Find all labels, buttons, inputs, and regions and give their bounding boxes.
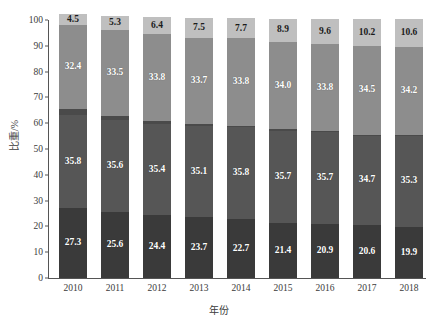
- x-tick-label: 2015: [269, 283, 297, 293]
- bar-segment-segment-5[interactable]: 4.5: [59, 14, 87, 26]
- y-tick-label: 90: [34, 41, 44, 51]
- stacked-bar-chart: 比重/% 年份 0102030405060708090100 27.335.83…: [0, 0, 437, 326]
- bar-segment-segment-1[interactable]: 20.9: [311, 224, 339, 278]
- bar-group[interactable]: 23.735.133.77.5: [185, 20, 213, 278]
- bar-segment-segment-4[interactable]: 33.8: [311, 44, 339, 131]
- bar-value-label: 4.5: [67, 15, 79, 25]
- bar-group[interactable]: 21.435.734.08.9: [269, 20, 297, 278]
- bar-value-label: 34.7: [359, 175, 376, 185]
- bar-value-label: 33.8: [317, 83, 334, 93]
- bar-value-label: 9.6: [319, 27, 331, 37]
- bar-segment-segment-4[interactable]: 33.8: [227, 38, 255, 125]
- bar-segment-segment-3[interactable]: [59, 109, 87, 115]
- bar-segment-segment-4[interactable]: 33.7: [185, 38, 213, 125]
- bar-segment-segment-5[interactable]: 9.6: [311, 19, 339, 44]
- x-tick-label: 2013: [185, 283, 213, 293]
- bar-segment-segment-2[interactable]: 34.7: [353, 135, 381, 225]
- bar-segment-segment-4[interactable]: 33.5: [101, 30, 129, 116]
- bar-value-label: 10.2: [359, 28, 376, 38]
- bar-segment-segment-3[interactable]: [311, 131, 339, 132]
- bar-value-label: 34.2: [401, 86, 418, 96]
- bar-segment-segment-3[interactable]: [101, 116, 129, 120]
- bar-value-label: 7.7: [235, 24, 247, 34]
- bar-segment-segment-1[interactable]: 21.4: [269, 223, 297, 278]
- bar-segment-segment-5[interactable]: 6.4: [143, 17, 171, 34]
- bar-segment-segment-2[interactable]: 35.6: [101, 120, 129, 212]
- y-tick-label: 30: [34, 196, 44, 206]
- bar-value-label: 33.5: [107, 68, 124, 78]
- bar-value-label: 10.6: [401, 28, 418, 38]
- bar-segment-segment-2[interactable]: 35.3: [395, 136, 423, 227]
- bar-segment-segment-1[interactable]: 25.6: [101, 212, 129, 278]
- bar-value-label: 20.6: [359, 247, 376, 257]
- bar-segment-segment-4[interactable]: 34.0: [269, 42, 297, 130]
- bar-segment-segment-5[interactable]: 10.6: [395, 19, 423, 46]
- y-tick-label: 70: [34, 92, 44, 102]
- bar-segment-segment-1[interactable]: 20.6: [353, 225, 381, 278]
- bar-value-label: 20.9: [317, 246, 334, 256]
- bar-segment-segment-2[interactable]: 35.7: [311, 132, 339, 224]
- bar-segment-segment-3[interactable]: [185, 124, 213, 126]
- bar-segment-segment-2[interactable]: 35.7: [269, 131, 297, 223]
- bar-value-label: 35.8: [233, 168, 250, 178]
- bar-segment-segment-5[interactable]: 5.3: [101, 16, 129, 30]
- bar-value-label: 23.7: [191, 243, 208, 253]
- bar-value-label: 35.8: [65, 157, 82, 167]
- bar-segment-segment-2[interactable]: 35.8: [227, 127, 255, 219]
- bar-segment-segment-2[interactable]: 35.4: [143, 124, 171, 215]
- bar-value-label: 5.3: [109, 18, 121, 28]
- bar-segment-segment-2[interactable]: 35.8: [59, 115, 87, 207]
- bar-segment-segment-5[interactable]: 7.7: [227, 18, 255, 38]
- bar-segment-segment-3[interactable]: [353, 135, 381, 136]
- x-tick-label: 2010: [59, 283, 87, 293]
- bar-value-label: 24.4: [149, 242, 166, 252]
- y-tick-label: 80: [34, 67, 44, 77]
- x-tick-label: 2016: [311, 283, 339, 293]
- y-tick-label: 0: [38, 273, 43, 283]
- x-tick-label: 2017: [353, 283, 381, 293]
- bar-segment-segment-1[interactable]: 19.9: [395, 227, 423, 278]
- bar-group[interactable]: 19.935.334.210.6: [395, 20, 423, 278]
- bar-segment-segment-5[interactable]: 10.2: [353, 19, 381, 45]
- bar-segment-segment-1[interactable]: 23.7: [185, 217, 213, 278]
- x-axis-line: [48, 278, 426, 279]
- bar-value-label: 33.8: [233, 77, 250, 87]
- plot-area: 0102030405060708090100 27.335.832.44.525…: [48, 20, 426, 278]
- x-tick-label: 2018: [395, 283, 423, 293]
- bar-segment-segment-2[interactable]: 35.1: [185, 126, 213, 217]
- x-axis-title: 年份: [0, 302, 437, 317]
- bar-group[interactable]: 20.935.733.89.6: [311, 20, 339, 278]
- bar-segment-segment-4[interactable]: 33.8: [143, 34, 171, 121]
- bar-value-label: 35.1: [191, 167, 208, 177]
- bar-group[interactable]: 27.335.832.44.5: [59, 20, 87, 278]
- bar-segment-segment-5[interactable]: 8.9: [269, 19, 297, 42]
- bar-segment-segment-4[interactable]: 34.2: [395, 47, 423, 135]
- bar-value-label: 35.4: [149, 165, 166, 175]
- bar-value-label: 6.4: [151, 21, 163, 31]
- y-tick-label: 10: [34, 247, 44, 257]
- bar-value-label: 8.9: [277, 25, 289, 35]
- bar-segment-segment-1[interactable]: 22.7: [227, 219, 255, 278]
- bar-segment-segment-1[interactable]: 24.4: [143, 215, 171, 278]
- y-tick-label: 60: [34, 118, 44, 128]
- bar-value-label: 35.6: [107, 161, 124, 171]
- bar-value-label: 33.8: [149, 73, 166, 83]
- bar-segment-segment-5[interactable]: 7.5: [185, 18, 213, 37]
- bar-group[interactable]: 25.635.633.55.3: [101, 20, 129, 278]
- bar-group[interactable]: 24.435.433.86.4: [143, 20, 171, 278]
- bar-segment-segment-3[interactable]: [227, 126, 255, 128]
- bar-group[interactable]: 20.634.734.510.2: [353, 20, 381, 278]
- bar-group[interactable]: 22.735.833.87.7: [227, 20, 255, 278]
- x-tick-label: 2011: [101, 283, 129, 293]
- y-tick-label: 50: [34, 144, 44, 154]
- x-tick-label: 2014: [227, 283, 255, 293]
- bar-segment-segment-4[interactable]: 32.4: [59, 25, 87, 109]
- bar-value-label: 22.7: [233, 244, 250, 254]
- bar-segment-segment-1[interactable]: 27.3: [59, 208, 87, 278]
- bar-segment-segment-3[interactable]: [143, 121, 171, 124]
- x-tick-label: 2012: [143, 283, 171, 293]
- bar-segment-segment-3[interactable]: [395, 135, 423, 136]
- bar-value-label: 34.0: [275, 81, 292, 91]
- bar-segment-segment-4[interactable]: 34.5: [353, 46, 381, 135]
- bar-segment-segment-3[interactable]: [269, 129, 297, 130]
